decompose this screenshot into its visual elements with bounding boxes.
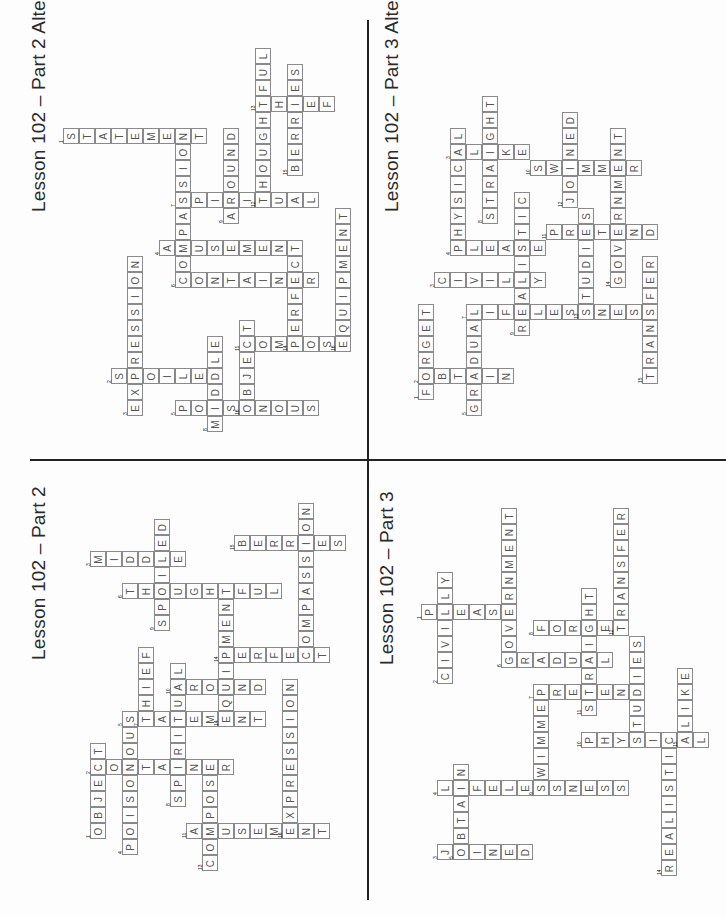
crossword-cell: S — [298, 551, 314, 567]
crossword-cell: I — [482, 368, 498, 384]
crossword-cell: S — [282, 743, 298, 759]
crossword-cell: R — [613, 508, 629, 524]
cell-letter: N — [486, 845, 501, 860]
crossword-cell: R — [549, 684, 565, 700]
crossword-cell: P5 — [175, 400, 191, 416]
crossword-cell: R — [303, 272, 319, 288]
cell-letter: R — [627, 161, 642, 176]
crossword-cell: F — [255, 80, 271, 96]
crossword-cell: U — [218, 823, 234, 839]
crossword-cell: O — [549, 620, 565, 636]
crossword-cell: E — [514, 144, 530, 160]
crossword-cell: U — [218, 679, 234, 695]
crossword-cell: D — [223, 128, 239, 144]
cell-letter: F — [419, 385, 434, 400]
crossword-cell: A — [514, 288, 530, 304]
cell-letter: O — [123, 776, 138, 791]
crossword-cell: T — [223, 272, 239, 288]
cell-letter: N — [272, 241, 287, 256]
cell-letter: E — [288, 81, 303, 96]
cell-letter: E — [515, 305, 530, 320]
cell-letter: E — [630, 653, 645, 668]
crossword-cell: T — [578, 288, 594, 304]
crossword-cell: L — [450, 128, 466, 144]
crossword-cell: R — [642, 352, 658, 368]
crossword-cell: P1 — [421, 604, 437, 620]
clue-number: 1 — [417, 616, 422, 619]
crossword-cell: I — [514, 256, 530, 272]
clue-number: 6 — [497, 664, 502, 667]
crossword-cell: A — [661, 828, 677, 844]
cell-letter: U — [192, 241, 207, 256]
cell-letter: I — [470, 845, 485, 860]
cell-letter: T — [256, 97, 271, 112]
crossword-cell: T — [629, 716, 645, 732]
cell-letter: R — [550, 685, 565, 700]
cell-letter: C — [203, 856, 218, 871]
crossword-cell: F — [642, 288, 658, 304]
crossword-cell: U — [466, 336, 482, 352]
crossword-cell: N — [218, 599, 234, 615]
cell-letter: I — [438, 621, 453, 636]
clue-number: 9 — [219, 220, 224, 223]
cell-letter: E — [240, 353, 255, 368]
cell-letter: L — [208, 353, 223, 368]
crossword-cell: E — [314, 535, 330, 551]
crossword-cell: R — [613, 604, 629, 620]
crossword-cell: O — [223, 176, 239, 192]
clue-number: 5 — [171, 412, 176, 415]
clue-number: 10 — [166, 688, 171, 694]
cell-letter: E — [251, 536, 266, 551]
crossword-cell: L — [175, 368, 191, 384]
crossword-cell: D — [578, 256, 594, 272]
crossword-cell: N — [626, 224, 642, 240]
clue-number: 8 — [203, 428, 208, 431]
crossword-cell: E — [501, 540, 517, 556]
cell-letter: T — [80, 129, 95, 144]
clue-number: 6 — [171, 284, 176, 287]
cell-letter: E — [128, 401, 143, 416]
cell-letter: S — [579, 305, 594, 320]
cell-letter: O — [91, 824, 106, 839]
cell-letter: U — [171, 584, 186, 599]
cell-letter: S — [331, 536, 346, 551]
cell-letter: A — [470, 605, 485, 620]
cell-letter: S — [64, 129, 79, 144]
crossword-cell: E — [287, 80, 303, 96]
cell-letter: D — [251, 680, 266, 695]
crossword-cell: A — [175, 208, 191, 224]
cell-letter: R — [288, 305, 303, 320]
crossword-cell: B — [239, 384, 255, 400]
crossword-cell: A15 — [677, 732, 693, 748]
cell-letter: G — [187, 584, 202, 599]
cell-letter: T — [315, 824, 330, 839]
cell-letter: C — [435, 273, 450, 288]
cell-letter: I — [534, 749, 549, 764]
cell-letter: S — [176, 193, 191, 208]
crossword-cell: L — [514, 272, 530, 288]
crossword-cell: E — [239, 352, 255, 368]
cell-letter: S — [171, 792, 186, 807]
cell-letter: E — [678, 669, 693, 684]
crossword-cell: P — [127, 368, 143, 384]
cell-letter: O — [203, 840, 218, 855]
clue-number: 5 — [118, 723, 123, 726]
crossword-cell: D — [207, 368, 223, 384]
cell-letter: E — [219, 712, 234, 727]
cell-letter: N — [272, 273, 287, 288]
cell-letter: E — [419, 321, 434, 336]
cell-letter: I — [219, 664, 234, 679]
crossword-cell: I — [645, 732, 661, 748]
crossword-cell: T — [661, 764, 677, 780]
cell-letter: U — [224, 161, 239, 176]
cell-letter: S — [283, 744, 298, 759]
crossword-cell: S — [613, 556, 629, 572]
cell-letter: R — [283, 776, 298, 791]
crossword-cell: O — [202, 679, 218, 695]
crossword-cell: C — [514, 192, 530, 208]
cell-letter: A — [224, 209, 239, 224]
cell-letter: E — [547, 305, 562, 320]
cell-letter: F — [470, 781, 485, 796]
clue-number: 9 — [150, 627, 155, 630]
cell-letter: R — [219, 760, 234, 775]
